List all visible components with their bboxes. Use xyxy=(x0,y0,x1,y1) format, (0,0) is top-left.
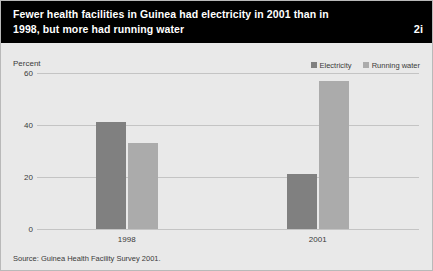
bar-2001-electricity xyxy=(287,174,317,229)
legend-item-electricity: Electricity xyxy=(311,61,352,70)
figure-title: Fewer health facilities in Guinea had el… xyxy=(13,7,343,37)
x-axis-label-1998: 1998 xyxy=(118,235,136,244)
figure-title-bar: Fewer health facilities in Guinea had el… xyxy=(1,1,433,43)
gridline xyxy=(37,229,419,230)
chart-legend: Electricity Running water xyxy=(311,60,420,70)
y-axis-title: Percent xyxy=(13,59,41,68)
source-note: Source: Guinea Health Facility Survey 20… xyxy=(13,254,161,263)
bar-1998-electricity xyxy=(96,122,126,229)
figure-panel: Fewer health facilities in Guinea had el… xyxy=(0,0,433,271)
plot-area xyxy=(37,73,419,229)
legend-swatch-running-water xyxy=(363,62,369,68)
bar-1998-running-water xyxy=(128,143,158,229)
y-tick-label: 40 xyxy=(11,121,33,130)
y-tick-label: 60 xyxy=(11,69,33,78)
legend-item-running-water: Running water xyxy=(363,61,420,70)
figure-number-label: 2i xyxy=(414,23,423,35)
bar-2001-running-water xyxy=(319,81,349,229)
y-axis-tick-labels: 60 40 20 0 xyxy=(9,73,33,229)
legend-label-running-water: Running water xyxy=(372,61,420,70)
legend-swatch-electricity xyxy=(311,62,317,68)
gridline xyxy=(37,73,419,74)
legend-label-electricity: Electricity xyxy=(320,61,352,70)
gridline xyxy=(37,125,419,126)
gridline xyxy=(37,177,419,178)
x-axis-label-2001: 2001 xyxy=(309,235,327,244)
y-tick-label: 20 xyxy=(11,173,33,182)
y-tick-label: 0 xyxy=(11,225,33,234)
chart-region: Percent Electricity Running water 60 40 … xyxy=(1,43,433,271)
